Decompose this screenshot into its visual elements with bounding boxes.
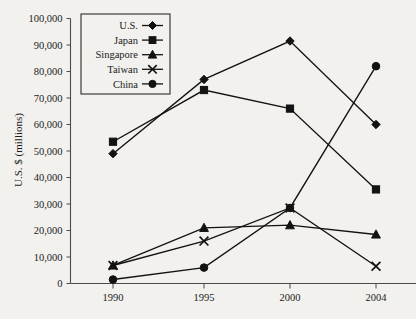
line-chart: 100,00090,00080,00070,00060,00050,00040,… (0, 0, 416, 319)
y-tick-label: 40,000 (34, 172, 63, 183)
x-tick-label: 2000 (280, 292, 301, 303)
data-point-square (109, 138, 116, 145)
data-point-square (286, 105, 293, 112)
chart-legend: U.S.JapanSingaporeTaiwanChina (81, 14, 170, 94)
data-point-circle (109, 276, 117, 284)
x-tick-label: 1995 (194, 292, 215, 303)
legend-item-label: Singapore (95, 49, 138, 60)
y-tick-label: 90,000 (34, 40, 63, 51)
y-axis-title: U.S. $ (millions) (12, 113, 25, 187)
data-point-circle (200, 264, 208, 272)
legend-item-label: Japan (114, 35, 139, 46)
chart-canvas: 100,00090,00080,00070,00060,00050,00040,… (0, 0, 416, 319)
y-tick-label: 50,000 (34, 146, 63, 157)
data-point-square (372, 186, 379, 193)
y-tick-label: 30,000 (34, 199, 63, 210)
y-tick-label: 80,000 (34, 66, 63, 77)
y-tick-label: 60,000 (34, 119, 63, 130)
data-point-square (200, 86, 207, 93)
data-point-square (149, 37, 156, 44)
data-point-circle (372, 62, 380, 70)
data-point-circle (286, 204, 294, 212)
y-tick-label: 0 (57, 278, 62, 289)
legend-item-label: Taiwan (107, 64, 139, 75)
legend-item-label: U.S. (119, 20, 138, 31)
x-tick-label: 1990 (103, 292, 124, 303)
y-tick-label: 20,000 (34, 225, 63, 236)
legend-item-label: China (113, 79, 138, 90)
y-tick-label: 10,000 (34, 252, 63, 263)
x-tick-label: 2004 (366, 292, 388, 303)
y-tick-label: 100,000 (28, 13, 62, 24)
data-point-circle (149, 80, 156, 87)
y-tick-label: 70,000 (34, 93, 63, 104)
